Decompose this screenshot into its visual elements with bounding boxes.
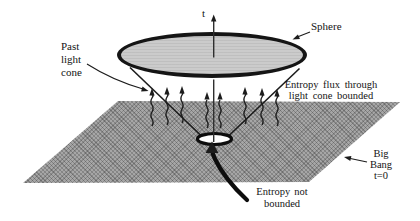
entropy-flux-arrow: [219, 100, 221, 128]
past-light-cone-label-line3: cone: [61, 66, 82, 79]
sphere-arrowhead: [293, 34, 301, 39]
big-bang-label-line1: Big: [360, 148, 402, 159]
past-light-cone-arrowhead: [141, 87, 148, 92]
entropy-not-bounded-line2: bounded: [243, 198, 321, 210]
apex-ellipse: [198, 134, 232, 145]
entropy-flux-arrow: [276, 96, 278, 126]
entropy-flux-arrow: [181, 93, 183, 123]
entropy-flux-bounded-label: Entropy flux through light cone bounded: [281, 79, 381, 101]
past-light-cone-label-line2: light: [61, 53, 82, 66]
entropy-not-bounded-line1: Entropy not: [243, 186, 321, 198]
big-bang-label-line2: Bang: [360, 159, 402, 170]
big-bang-label: Big Bang t=0: [360, 148, 402, 181]
past-light-cone-label-line1: Past: [61, 40, 82, 53]
entropy-flux-arrow: [206, 100, 208, 128]
past-light-cone-label: Past light cone: [61, 40, 82, 79]
diagram-canvas: t Sphere Past light cone Entropy flux th…: [0, 0, 420, 221]
entropy-flux-arrowhead: [274, 89, 279, 97]
entropy-flux-arrowhead: [149, 88, 154, 96]
entropy-flux-arrowhead: [242, 87, 247, 95]
entropy-flux-bounded-line1: Entropy flux through: [281, 79, 381, 90]
time-axis-label: t: [202, 7, 205, 19]
entropy-flux-arrow: [151, 96, 153, 126]
entropy-flux-arrowhead: [164, 87, 169, 95]
sphere-label: Sphere: [311, 20, 342, 32]
entropy-flux-bounded-line2: light cone bounded: [281, 90, 381, 101]
entropy-flux-arrow: [166, 95, 168, 125]
entropy-flux-arrowhead: [217, 92, 222, 100]
entropy-flux-arrowhead: [204, 92, 209, 100]
diagram-lines: [0, 0, 420, 221]
entropy-not-bounded-arrow: [212, 150, 247, 201]
big-bang-arrowhead: [344, 156, 351, 161]
time-axis-arrowhead: [211, 15, 216, 22]
entropy-not-bounded-label: Entropy not bounded: [243, 186, 321, 209]
entropy-flux-arrow: [261, 95, 263, 125]
entropy-flux-arrowhead: [259, 88, 264, 96]
entropy-flux-arrowhead: [179, 86, 184, 94]
big-bang-label-line3: t=0: [360, 170, 402, 181]
past-light-cone-arrow: [87, 64, 143, 89]
